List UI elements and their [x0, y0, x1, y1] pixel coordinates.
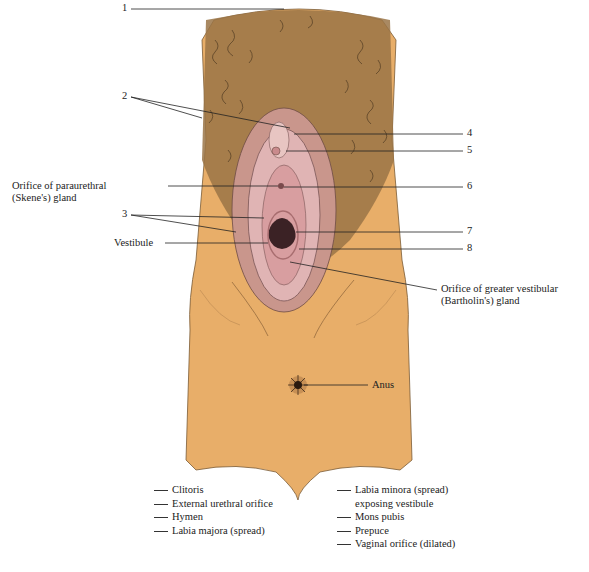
answer-blank	[154, 490, 168, 491]
answer-blank	[154, 517, 168, 518]
callout-2: 2	[122, 90, 127, 102]
answer-blank	[337, 544, 351, 545]
legend-item: Hymen	[154, 510, 273, 524]
callout-4: 4	[467, 127, 472, 139]
legend-left: Clitoris External urethral orifice Hymen…	[154, 483, 273, 537]
answer-blank	[337, 490, 351, 491]
urethral-orifice	[278, 183, 284, 189]
legend-item: Labia minora (spread)	[337, 483, 455, 497]
legend-right: Labia minora (spread) exposing vestibule…	[337, 483, 455, 551]
label-anus: Anus	[372, 379, 394, 391]
legend-item: Clitoris	[154, 483, 273, 497]
legend-item: Vaginal orifice (dilated)	[337, 537, 455, 551]
callout-6: 6	[467, 180, 472, 192]
callout-3: 3	[122, 208, 127, 220]
answer-blank	[154, 531, 168, 532]
answer-blank	[337, 517, 351, 518]
answer-blank	[337, 531, 351, 532]
callout-8: 8	[467, 242, 472, 254]
label-bartholin-gland: Orifice of greater vestibular (Bartholin…	[441, 283, 558, 307]
callout-7: 7	[467, 225, 472, 237]
legend-item: External urethral orifice	[154, 497, 273, 511]
callout-5: 5	[467, 144, 472, 156]
clitoris	[272, 147, 280, 155]
answer-blank	[154, 504, 168, 505]
callout-1: 1	[122, 2, 127, 14]
label-skene-gland: Orifice of paraurethral (Skene's) gland	[12, 180, 106, 204]
legend-item: Mons pubis	[337, 510, 455, 524]
legend-item: Prepuce	[337, 524, 455, 538]
label-vestibule: Vestibule	[114, 237, 153, 249]
legend-item: Labia majora (spread)	[154, 524, 273, 538]
